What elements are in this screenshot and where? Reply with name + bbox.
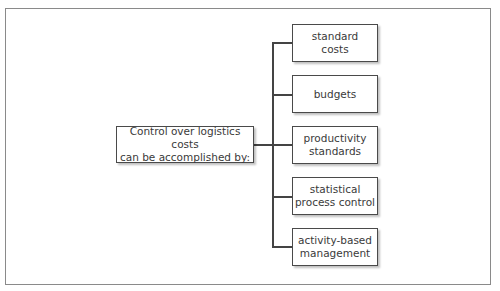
- target-text-line2: management: [300, 247, 370, 260]
- target-box-standard-costs: standard costs: [292, 24, 378, 62]
- target-text-line2: process control: [295, 196, 375, 209]
- target-text-line2: costs: [321, 43, 348, 56]
- target-text-line1: standard: [312, 30, 359, 43]
- connector-branch-3: [272, 144, 293, 146]
- target-box-activity-based-management: activity-based management: [292, 228, 378, 266]
- connector-branch-4: [272, 196, 293, 198]
- target-text-line1: budgets: [314, 88, 357, 101]
- connector-branch-1: [272, 42, 293, 44]
- source-box: Control over logistics costs can be acco…: [116, 126, 254, 163]
- connector-branch-2: [272, 94, 293, 96]
- source-text-line1: Control over logistics costs: [117, 125, 253, 151]
- target-text-line2: standards: [309, 145, 361, 158]
- target-box-statistical-process-control: statistical process control: [292, 177, 378, 215]
- source-text-line2: can be accomplished by:: [120, 151, 250, 164]
- target-box-productivity-standards: productivity standards: [292, 126, 378, 164]
- target-text-line1: productivity: [304, 132, 367, 145]
- connector-branch-5: [272, 246, 293, 248]
- target-box-budgets: budgets: [292, 75, 378, 113]
- target-text-line1: statistical: [310, 183, 361, 196]
- connector-source: [253, 144, 274, 146]
- target-text-line1: activity-based: [298, 234, 372, 247]
